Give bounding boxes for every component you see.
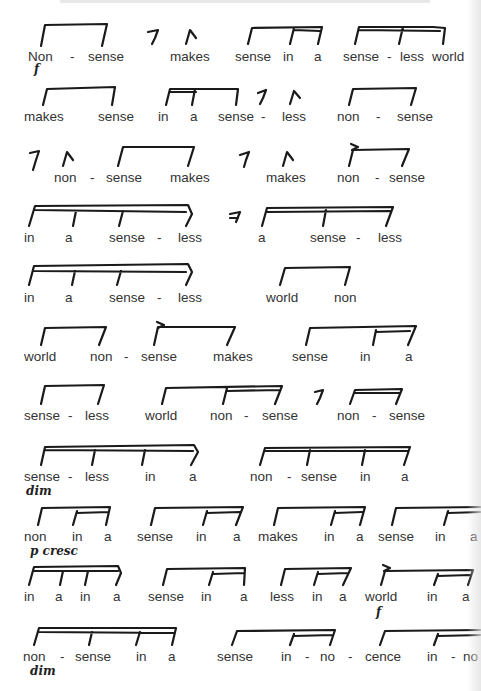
rest-icon [258, 90, 266, 104]
beam [162, 386, 282, 404]
lyric-word: a [258, 231, 266, 245]
lyric-word: world [24, 350, 56, 364]
lyric-word: non [334, 291, 357, 305]
beam [232, 630, 335, 645]
breath-icon [383, 565, 390, 571]
lyric-word: world [266, 291, 298, 305]
syllable-hyphen: - [375, 171, 380, 185]
lyric-word: sense [292, 350, 328, 364]
lyric-word: a [356, 530, 364, 544]
syllable-hyphen: - [305, 650, 310, 664]
syllable-hyphen: - [124, 350, 129, 364]
lyric-word: sense [310, 231, 346, 245]
beam [34, 628, 176, 645]
lyric-word: sense [262, 409, 298, 423]
lyric-word: world [432, 50, 464, 64]
lyric-word: non [54, 171, 77, 185]
beam [381, 570, 473, 585]
lyric-word: sense [88, 50, 124, 64]
beam [29, 264, 192, 285]
lyric-word: in [136, 650, 147, 664]
accent-icon [63, 152, 73, 166]
lyric-word: sense [343, 50, 379, 64]
beam [41, 445, 198, 465]
lyric-word: sense [109, 291, 145, 305]
lyric-word: a [189, 470, 197, 484]
lyric-word: in [72, 530, 83, 544]
beam [166, 89, 238, 105]
lyric-word: less [282, 110, 306, 124]
syllable-hyphen: - [68, 409, 73, 423]
lyric-word: non [90, 350, 113, 364]
lyric-word: in [201, 590, 212, 604]
lyric-word: sense [24, 470, 60, 484]
beam [38, 507, 110, 525]
rhythm-beams [0, 0, 481, 691]
lyric-word: sense [389, 409, 425, 423]
lyric-word: a [240, 590, 248, 604]
lyric-word: a [55, 590, 63, 604]
lyric-word: in [196, 530, 207, 544]
lyric-word: in [360, 350, 371, 364]
lyric-word: in [24, 590, 35, 604]
page-edge-shadow [467, 0, 481, 691]
syllable-hyphen: - [68, 470, 73, 484]
dynamic-marking: p cresc [30, 544, 78, 558]
lyric-word: in [360, 470, 371, 484]
dynamic-marking: dim [30, 664, 56, 678]
syllable-hyphen: - [261, 110, 266, 124]
lyric-word: a [113, 590, 121, 604]
lyric-word: sense [235, 50, 271, 64]
lyric-word: less [178, 231, 202, 245]
cropped-header [60, 0, 430, 3]
syllable-hyphen: - [157, 291, 162, 305]
lyric-word: in [281, 650, 292, 664]
beam [41, 327, 106, 345]
breath-icon [351, 144, 358, 150]
lyric-word: in [145, 470, 156, 484]
lyric-word: a [405, 350, 413, 364]
beam [41, 385, 104, 404]
syllable-hyphen: - [376, 110, 381, 124]
lyric-word: in [324, 530, 335, 544]
lyric-word: Non [28, 50, 53, 64]
syllable-hyphen: - [451, 650, 456, 664]
beam [274, 507, 365, 525]
rest-icon [30, 151, 39, 170]
lyric-word: non [337, 110, 360, 124]
lyric-word: in [80, 590, 91, 604]
lyric-word: less [270, 590, 294, 604]
lyric-word: sense [218, 110, 254, 124]
syllable-hyphen: - [244, 409, 249, 423]
lyric-word: in [24, 231, 35, 245]
accent-icon [283, 152, 293, 166]
syllable-hyphen: - [90, 171, 95, 185]
lyric-word: sense [137, 530, 173, 544]
dynamic-marking: f [376, 605, 381, 619]
beam [355, 27, 445, 44]
lyric-word: a [233, 530, 241, 544]
beam [349, 88, 416, 105]
lyric-word: a [65, 231, 73, 245]
breath-icon [157, 322, 164, 328]
beam [29, 205, 192, 226]
lyric-word: a [339, 590, 347, 604]
beam [260, 447, 410, 465]
beam [118, 147, 194, 166]
lyric-word: cence [365, 650, 401, 664]
syllable-hyphen: - [287, 470, 292, 484]
dynamic-marking: f [34, 62, 39, 76]
beam [163, 568, 245, 585]
lyric-word: non [210, 409, 233, 423]
lyric-word: less [85, 470, 109, 484]
beam [41, 24, 107, 46]
lyric-word: non [337, 171, 360, 185]
lyric-word: sense [397, 110, 433, 124]
lyric-word: non [337, 409, 360, 423]
beam [154, 327, 235, 345]
syllable-hyphen: - [70, 50, 75, 64]
lyric-word: less [400, 50, 424, 64]
lyric-word: sense [75, 650, 111, 664]
lyric-word: in [435, 530, 446, 544]
lyric-word: in [24, 291, 35, 305]
